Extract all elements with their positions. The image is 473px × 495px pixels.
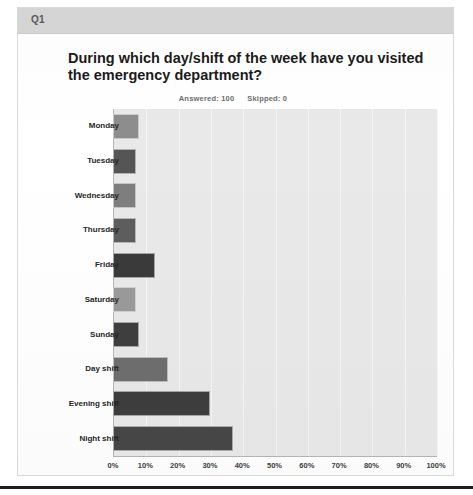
gridline — [211, 109, 212, 456]
gridline — [405, 109, 406, 456]
survey-question-card: Q1 During which day/shift of the week ha… — [17, 7, 454, 476]
gridline — [340, 109, 341, 456]
x-tick-label: 0% — [108, 461, 119, 470]
x-tick-label: 90% — [396, 461, 411, 470]
bar-evening-shift — [113, 391, 210, 416]
x-axis-line — [113, 456, 437, 457]
x-tick-label: 100% — [426, 461, 445, 470]
x-tick-label: 10% — [138, 461, 153, 470]
question-band: Q1 — [18, 8, 454, 34]
question-number-label: Q1 — [31, 14, 45, 25]
category-label: Wednesday — [33, 191, 119, 200]
category-label: Day shift — [33, 364, 119, 373]
category-label: Night shift — [33, 434, 119, 443]
gridline — [276, 109, 277, 456]
gridline — [437, 109, 438, 456]
gridline — [372, 109, 373, 456]
x-tick-label: 80% — [364, 461, 379, 470]
category-label: Monday — [33, 121, 119, 130]
chart-title: During which day/shift of the week have … — [68, 50, 428, 84]
skipped-count: Skipped: 0 — [247, 94, 287, 103]
document-page: Q1 During which day/shift of the week ha… — [0, 0, 473, 495]
category-label: Tuesday — [33, 156, 119, 165]
bar-day-shift — [113, 357, 168, 382]
gridline — [243, 109, 244, 456]
x-tick-label: 70% — [332, 461, 347, 470]
bar-night-shift — [113, 426, 233, 451]
chart-subtitle: Answered: 100Skipped: 0 — [68, 94, 398, 103]
x-tick-label: 60% — [299, 461, 314, 470]
bar-friday — [113, 253, 155, 278]
category-label: Saturday — [33, 295, 119, 304]
page-bottom-rule — [0, 486, 473, 489]
category-label: Friday — [33, 260, 119, 269]
x-tick-label: 40% — [235, 461, 250, 470]
category-label: Thursday — [33, 225, 119, 234]
x-tick-label: 30% — [202, 461, 217, 470]
category-label: Evening shift — [33, 399, 119, 408]
category-label: Sunday — [33, 330, 119, 339]
gridline — [308, 109, 309, 456]
x-tick-label: 50% — [267, 461, 282, 470]
answered-count: Answered: 100 — [179, 94, 235, 103]
x-tick-label: 20% — [170, 461, 185, 470]
